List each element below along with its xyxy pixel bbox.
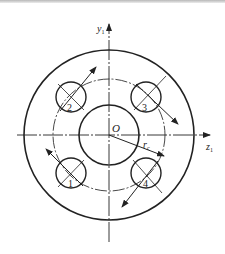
hole-2: 2 — [56, 67, 96, 113]
radius-arrow — [109, 135, 164, 156]
hole-2-label: 2 — [67, 102, 72, 113]
origin-label: O — [112, 122, 120, 134]
y-axis-label: y1 — [96, 23, 104, 35]
radius-label: rc — [143, 139, 150, 151]
hole-4-label: 4 — [143, 178, 148, 189]
bolt-pattern-diagram: y1 z1 O rc 2 3 1 4 — [0, 0, 225, 254]
hole-1-label: 1 — [68, 178, 73, 189]
z-axis-label: z1 — [205, 141, 213, 153]
hole-1: 1 — [46, 149, 86, 189]
hole-3: 3 — [131, 76, 178, 124]
hole-3-label: 3 — [142, 102, 147, 113]
